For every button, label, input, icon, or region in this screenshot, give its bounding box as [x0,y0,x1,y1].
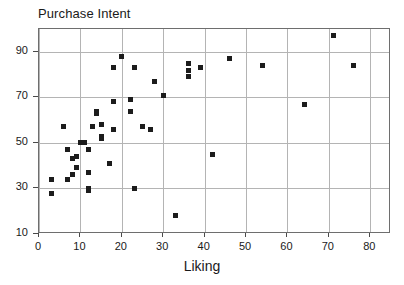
data-point [49,191,54,196]
data-point [260,63,265,68]
data-point [86,186,91,191]
tick-x-60 [286,233,287,237]
data-point [186,74,191,79]
gridline-x-20 [122,29,123,232]
gridline-y-30 [39,188,389,189]
data-point [331,33,336,38]
gridline-x-10 [80,29,81,232]
gridline-y-90 [39,52,389,53]
tick-x-70 [328,233,329,237]
x-tick-label-20: 20 [106,240,136,252]
data-point [65,147,70,152]
y-tick-label-30: 30 [2,180,28,192]
data-point [351,63,356,68]
data-point [132,65,137,70]
data-point [111,127,116,132]
tick-y-10 [33,233,38,234]
data-point [70,172,75,177]
x-tick-label-70: 70 [313,240,343,252]
gridline-x-40 [205,29,206,232]
data-point [90,124,95,129]
data-point [173,213,178,218]
data-point [94,109,99,114]
y-tick-label-10: 10 [2,226,28,238]
gridline-x-50 [246,29,247,232]
gridline-y-70 [39,97,389,98]
gridline-x-70 [329,29,330,232]
data-point [140,124,145,129]
y-tick-label-70: 70 [2,89,28,101]
data-point [99,122,104,127]
data-point [152,79,157,84]
data-point [74,165,79,170]
page-title: Purchase Intent [38,6,131,21]
tick-x-30 [162,233,163,237]
x-tick-label-50: 50 [230,240,260,252]
data-point [119,54,124,59]
gridline-x-60 [287,29,288,232]
data-point [107,161,112,166]
gridline-x-0 [39,29,40,232]
tick-y-30 [33,187,38,188]
data-point [49,177,54,182]
y-tick-label-50: 50 [2,135,28,147]
gridline-x-30 [163,29,164,232]
y-tick-label-90: 90 [2,44,28,56]
data-point [302,102,307,107]
tick-y-90 [33,51,38,52]
data-point [99,134,104,139]
x-tick-label-0: 0 [23,240,53,252]
data-point [82,140,87,145]
gridline-y-50 [39,143,389,144]
x-tick-label-10: 10 [64,240,94,252]
x-tick-label-30: 30 [147,240,177,252]
data-point [65,177,70,182]
data-point [227,56,232,61]
plot-area [38,28,390,233]
data-point [111,99,116,104]
tick-x-80 [369,233,370,237]
data-point [128,109,133,114]
tick-x-50 [245,233,246,237]
data-point [111,65,116,70]
gridline-x-80 [370,29,371,232]
data-point [132,186,137,191]
data-point [161,93,166,98]
x-tick-label-60: 60 [271,240,301,252]
tick-x-40 [204,233,205,237]
data-point [86,147,91,152]
tick-x-0 [38,233,39,237]
tick-x-10 [79,233,80,237]
tick-x-20 [121,233,122,237]
data-point [198,65,203,70]
x-tick-label-40: 40 [189,240,219,252]
tick-y-50 [33,142,38,143]
data-point [148,127,153,132]
tick-y-70 [33,96,38,97]
data-point [61,124,66,129]
data-point [210,152,215,157]
data-point [128,97,133,102]
chart-screenshot: Purchase Intent 01020304050607080 103050… [0,0,404,285]
data-point [186,68,191,73]
data-point [74,154,79,159]
data-point [86,170,91,175]
x-tick-label-80: 80 [354,240,384,252]
data-point [186,61,191,66]
x-axis-title: Liking [0,258,404,274]
